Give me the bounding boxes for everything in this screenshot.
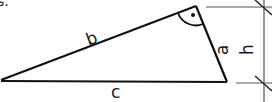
side-a [196, 6, 227, 82]
label-c: c [111, 82, 120, 102]
caption-fragment: s. [0, 0, 9, 9]
label-h: h [237, 44, 257, 55]
triangle-diagram: s. b c a h [0, 0, 272, 102]
right-angle-dot [191, 13, 195, 17]
label-b: b [83, 27, 100, 49]
label-a: a [212, 45, 232, 55]
